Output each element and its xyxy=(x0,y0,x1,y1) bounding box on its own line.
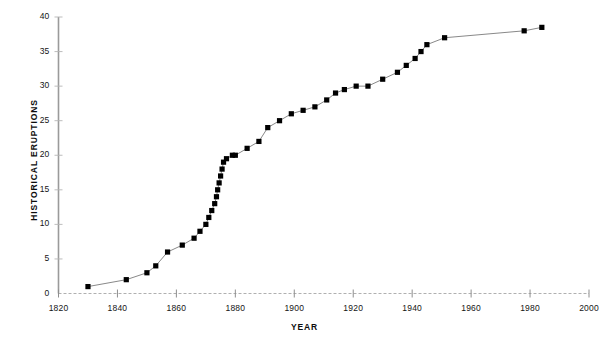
data-point-marker xyxy=(197,229,202,234)
data-point-marker xyxy=(206,215,211,220)
y-axis-tick-label: 35 xyxy=(26,46,50,56)
x-axis-tick-label: 1920 xyxy=(333,303,373,313)
data-point-marker xyxy=(153,263,158,268)
data-point-marker xyxy=(245,146,250,151)
x-axis-title: YEAR xyxy=(0,322,609,332)
y-axis-tick-label: 5 xyxy=(26,253,50,263)
data-point-marker xyxy=(256,139,261,144)
data-point-marker xyxy=(218,173,223,178)
data-point-marker xyxy=(165,249,170,254)
data-point-marker xyxy=(418,49,423,54)
data-point-marker xyxy=(404,63,409,68)
data-point-marker xyxy=(85,284,90,289)
data-point-marker xyxy=(265,125,270,130)
x-axis-tick-label: 1820 xyxy=(39,303,79,313)
chart-container: 0510152025303540 18201840186018801900192… xyxy=(0,0,609,344)
x-axis-tick-label: 2000 xyxy=(569,303,609,313)
data-point-marker xyxy=(124,277,129,282)
data-series-markers xyxy=(85,25,544,289)
data-point-marker xyxy=(219,166,224,171)
data-point-marker xyxy=(301,108,306,113)
data-point-marker xyxy=(395,70,400,75)
x-axis-tick-label: 1940 xyxy=(392,303,432,313)
y-axis-tick-label: 40 xyxy=(26,11,50,21)
x-axis-tick-label: 1900 xyxy=(274,303,314,313)
data-point-marker xyxy=(413,56,418,61)
axis-lines xyxy=(59,17,590,294)
data-point-marker xyxy=(180,243,185,248)
data-point-marker xyxy=(289,111,294,116)
data-point-marker xyxy=(217,180,222,185)
data-point-marker xyxy=(333,90,338,95)
x-axis-tick-label: 1880 xyxy=(215,303,255,313)
data-series-line xyxy=(88,27,542,286)
x-axis-tick-label: 1840 xyxy=(97,303,137,313)
data-point-marker xyxy=(224,156,229,161)
data-point-marker xyxy=(191,236,196,241)
data-point-marker xyxy=(324,97,329,102)
y-axis-tick-label: 0 xyxy=(26,288,50,298)
data-point-marker xyxy=(233,153,238,158)
data-point-marker xyxy=(354,84,359,89)
x-axis-tick-label: 1960 xyxy=(451,303,491,313)
data-point-marker xyxy=(522,28,527,33)
data-point-marker xyxy=(380,77,385,82)
data-point-marker xyxy=(342,87,347,92)
data-point-marker xyxy=(442,35,447,40)
y-axis-title: HISTORICAL ERUPTIONS xyxy=(29,70,39,250)
data-point-marker xyxy=(144,270,149,275)
chart-plot-area xyxy=(0,0,609,344)
data-point-marker xyxy=(212,201,217,206)
data-point-marker xyxy=(365,84,370,89)
data-point-marker xyxy=(277,118,282,123)
data-point-marker xyxy=(215,187,220,192)
x-axis-tick-label: 1980 xyxy=(510,303,550,313)
data-point-marker xyxy=(209,208,214,213)
data-point-marker xyxy=(312,104,317,109)
data-point-marker xyxy=(203,222,208,227)
data-point-marker xyxy=(424,42,429,47)
x-axis-tick-label: 1860 xyxy=(156,303,196,313)
data-point-marker xyxy=(539,25,544,30)
data-point-marker xyxy=(214,194,219,199)
